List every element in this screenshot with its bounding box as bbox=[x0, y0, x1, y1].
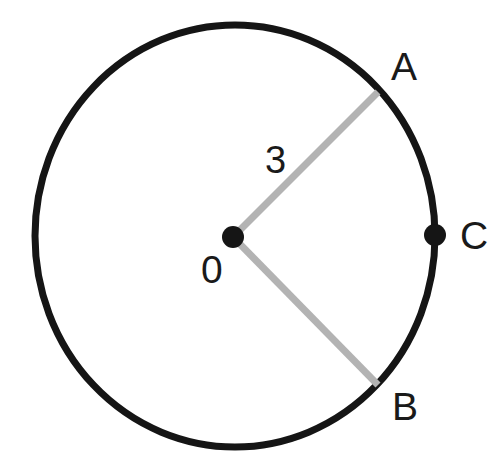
point-b-label: B bbox=[392, 387, 418, 426]
radius-length-label: 3 bbox=[265, 141, 286, 179]
radius-segment-ob bbox=[233, 237, 378, 385]
geometry-canvas bbox=[0, 0, 504, 464]
point-a-label: A bbox=[391, 47, 417, 86]
radius-segment-oa bbox=[233, 92, 378, 237]
center-point-label: 0 bbox=[201, 250, 223, 289]
center-point-dot bbox=[222, 226, 244, 248]
circle-diagram: A C B 0 3 bbox=[0, 0, 504, 464]
point-c-label: C bbox=[460, 216, 488, 255]
point-c-dot bbox=[424, 224, 446, 246]
